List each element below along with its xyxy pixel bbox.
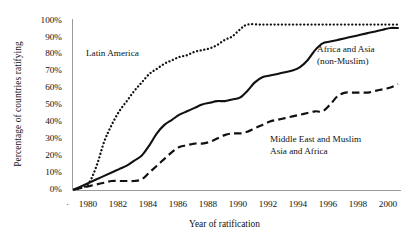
series-line-dotted (74, 24, 398, 189)
series-lines (74, 24, 398, 189)
plot-area (0, 0, 411, 238)
chart-figure: Percentage of countries ratifying 100% 9… (0, 0, 411, 238)
series-line-solid (74, 28, 398, 190)
axis-lines (73, 19, 402, 191)
